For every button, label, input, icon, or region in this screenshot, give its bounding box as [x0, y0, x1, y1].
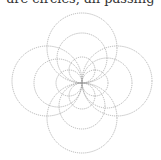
circle-6 [34, 59, 82, 107]
circle-1 [47, 83, 117, 153]
circle-0 [47, 13, 117, 83]
circle-2 [12, 46, 82, 116]
circle-7 [82, 58, 132, 108]
circles-diagram [0, 0, 161, 160]
circle-4 [57, 33, 107, 83]
